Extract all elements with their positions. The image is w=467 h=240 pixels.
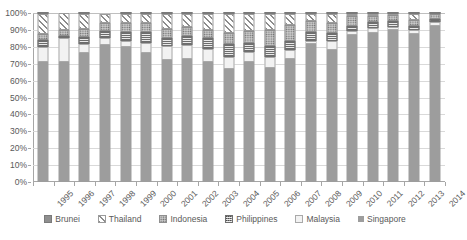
bar-segment-thailand[interactable]	[264, 14, 275, 30]
bar-segment-brunei[interactable]	[141, 12, 152, 14]
bar-segment-indonesia[interactable]	[141, 23, 152, 32]
bar-segment-philippines[interactable]	[100, 31, 111, 39]
bar-segment-thailand[interactable]	[38, 14, 49, 34]
bar-segment-brunei[interactable]	[347, 12, 358, 14]
bar-segment-singapore[interactable]	[367, 33, 378, 182]
bar-segment-thailand[interactable]	[79, 14, 90, 29]
bar-segment-philippines[interactable]	[306, 32, 317, 40]
bar-segment-thailand[interactable]	[285, 14, 296, 25]
stacked-bar[interactable]	[429, 13, 440, 182]
bar-segment-thailand[interactable]	[100, 14, 111, 23]
bar-segment-malaysia[interactable]	[347, 31, 358, 35]
bar-segment-indonesia[interactable]	[203, 30, 214, 38]
bar-segment-indonesia[interactable]	[244, 31, 255, 43]
legend-item-singapore[interactable]: Singapore	[358, 214, 406, 224]
bar-segment-thailand[interactable]	[326, 14, 337, 23]
stacked-bar[interactable]	[367, 13, 378, 182]
bar-segment-indonesia[interactable]	[264, 30, 275, 46]
bar-segment-indonesia[interactable]	[223, 33, 234, 44]
bar-segment-brunei[interactable]	[161, 12, 172, 14]
bar-segment-thailand[interactable]	[161, 14, 172, 29]
bar-segment-singapore[interactable]	[100, 45, 111, 182]
bar-segment-singapore[interactable]	[141, 53, 152, 182]
stacked-bar[interactable]	[141, 13, 152, 182]
bar-segment-thailand[interactable]	[409, 14, 420, 20]
stacked-bar[interactable]	[347, 13, 358, 182]
bar-segment-indonesia[interactable]	[429, 14, 440, 19]
stacked-bar[interactable]	[306, 13, 317, 182]
bar-segment-brunei[interactable]	[409, 12, 420, 14]
bar-segment-malaysia[interactable]	[58, 38, 69, 62]
bar-segment-malaysia[interactable]	[141, 43, 152, 53]
bar-segment-malaysia[interactable]	[161, 46, 172, 60]
bar-segment-thailand[interactable]	[120, 14, 131, 23]
bar-segment-philippines[interactable]	[347, 26, 358, 31]
bar-segment-brunei[interactable]	[120, 12, 131, 14]
stacked-bar[interactable]	[38, 13, 49, 182]
bar-segment-singapore[interactable]	[347, 35, 358, 182]
bar-segment-brunei[interactable]	[367, 12, 378, 14]
bar-segment-philippines[interactable]	[38, 40, 49, 47]
bar-segment-thailand[interactable]	[244, 14, 255, 31]
legend-item-brunei[interactable]: Brunei	[44, 214, 80, 224]
legend-item-thailand[interactable]: Thailand	[98, 214, 142, 224]
bar-segment-brunei[interactable]	[182, 12, 193, 14]
bar-segment-singapore[interactable]	[264, 68, 275, 182]
bar-segment-brunei[interactable]	[429, 12, 440, 14]
bar-segment-indonesia[interactable]	[306, 21, 317, 33]
bar-segment-indonesia[interactable]	[367, 16, 378, 23]
bar-segment-philippines[interactable]	[120, 32, 131, 41]
bar-segment-brunei[interactable]	[326, 12, 337, 14]
bar-segment-singapore[interactable]	[326, 50, 337, 182]
bar-segment-thailand[interactable]	[347, 14, 358, 17]
stacked-bar[interactable]	[223, 13, 234, 182]
bar-segment-philippines[interactable]	[79, 37, 90, 45]
bar-segment-thailand[interactable]	[223, 14, 234, 33]
bar-segment-philippines[interactable]	[223, 44, 234, 57]
bar-segment-philippines[interactable]	[409, 26, 420, 30]
bar-segment-indonesia[interactable]	[182, 27, 193, 35]
bar-segment-singapore[interactable]	[120, 47, 131, 182]
stacked-bar[interactable]	[100, 13, 111, 182]
bar-segment-indonesia[interactable]	[120, 23, 131, 31]
bar-segment-thailand[interactable]	[58, 13, 69, 30]
bar-segment-indonesia[interactable]	[388, 15, 399, 22]
bar-segment-malaysia[interactable]	[409, 30, 420, 34]
bar-segment-thailand[interactable]	[182, 14, 193, 28]
bar-segment-singapore[interactable]	[79, 53, 90, 182]
bar-segment-brunei[interactable]	[306, 12, 317, 14]
stacked-bar[interactable]	[285, 13, 296, 182]
stacked-bar[interactable]	[79, 13, 90, 182]
bar-segment-malaysia[interactable]	[203, 49, 214, 62]
bar-segment-indonesia[interactable]	[409, 20, 420, 26]
stacked-bar[interactable]	[388, 13, 399, 182]
bar-segment-malaysia[interactable]	[306, 41, 317, 44]
bar-segment-indonesia[interactable]	[58, 30, 69, 36]
bar-segment-singapore[interactable]	[244, 62, 255, 182]
bar-segment-malaysia[interactable]	[429, 22, 440, 25]
bar-segment-singapore[interactable]	[285, 59, 296, 182]
bar-segment-philippines[interactable]	[161, 38, 172, 46]
bar-segment-indonesia[interactable]	[347, 16, 358, 25]
bar-segment-malaysia[interactable]	[367, 28, 378, 33]
stacked-bar[interactable]	[264, 13, 275, 182]
bar-segment-indonesia[interactable]	[285, 25, 296, 41]
bar-segment-malaysia[interactable]	[100, 38, 111, 45]
bar-segment-malaysia[interactable]	[223, 57, 234, 69]
stacked-bar[interactable]	[161, 13, 172, 182]
bar-segment-singapore[interactable]	[203, 62, 214, 182]
bar-segment-malaysia[interactable]	[388, 27, 399, 30]
stacked-bar[interactable]	[203, 13, 214, 182]
bar-segment-singapore[interactable]	[429, 26, 440, 182]
bar-segment-indonesia[interactable]	[161, 29, 172, 37]
stacked-bar[interactable]	[120, 13, 131, 182]
bar-segment-brunei[interactable]	[203, 12, 214, 14]
bar-segment-brunei[interactable]	[244, 12, 255, 14]
stacked-bar[interactable]	[244, 13, 255, 182]
bar-segment-malaysia[interactable]	[79, 44, 90, 52]
bar-segment-singapore[interactable]	[306, 44, 317, 182]
bar-segment-singapore[interactable]	[182, 59, 193, 182]
bar-segment-singapore[interactable]	[161, 60, 172, 182]
bar-segment-brunei[interactable]	[388, 12, 399, 14]
bar-segment-philippines[interactable]	[244, 43, 255, 52]
